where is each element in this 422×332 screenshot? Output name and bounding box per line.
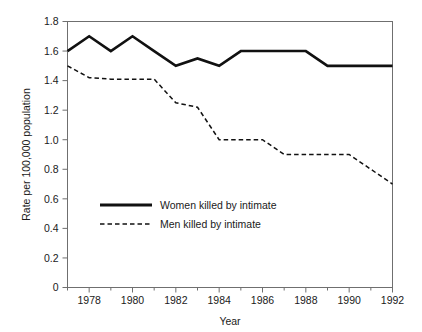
line-chart: 19781980198219841986198819901992 00.20.4…: [0, 0, 422, 332]
legend-label-1: Men killed by intimate: [160, 218, 261, 230]
plot-border: [68, 22, 393, 288]
x-tick-label: 1986: [251, 294, 275, 306]
y-tick-label: 0.8: [44, 163, 59, 175]
series-line-1: [68, 66, 393, 184]
x-tick-label: 1992: [381, 294, 405, 306]
x-tick-label: 1978: [77, 294, 101, 306]
chart-container: 19781980198219841986198819901992 00.20.4…: [0, 0, 422, 332]
y-tick-label: 0.6: [44, 193, 59, 205]
x-axis-tick-labels: 19781980198219841986198819901992: [77, 294, 404, 306]
y-axis-tick-labels: 00.20.40.60.81.01.21.41.61.8: [44, 15, 59, 293]
plot-frame: [68, 22, 393, 288]
y-tick-label: 0.2: [44, 252, 59, 264]
x-tick-label: 1988: [294, 294, 318, 306]
x-tick-label: 1982: [164, 294, 188, 306]
y-axis-ticks: [63, 22, 68, 288]
y-tick-label: 1.8: [44, 15, 59, 27]
x-axis-ticks: [68, 288, 393, 293]
y-tick-label: 1.2: [44, 104, 59, 116]
series-line-0: [68, 36, 393, 66]
x-axis-title: Year: [219, 315, 241, 327]
y-axis-title: Rate per 100,000 population: [20, 88, 32, 221]
x-tick-label: 1984: [207, 294, 231, 306]
x-tick-label: 1990: [337, 294, 361, 306]
y-tick-label: 1.6: [44, 45, 59, 57]
data-series-group: [68, 36, 393, 184]
y-tick-label: 0.4: [44, 222, 59, 234]
y-tick-label: 1.4: [44, 74, 59, 86]
y-tick-label: 0: [53, 281, 59, 293]
x-tick-label: 1980: [121, 294, 145, 306]
legend-label-0: Women killed by intimate: [160, 199, 277, 211]
chart-legend: Women killed by intimateMen killed by in…: [100, 199, 277, 230]
y-tick-label: 1.0: [44, 134, 59, 146]
